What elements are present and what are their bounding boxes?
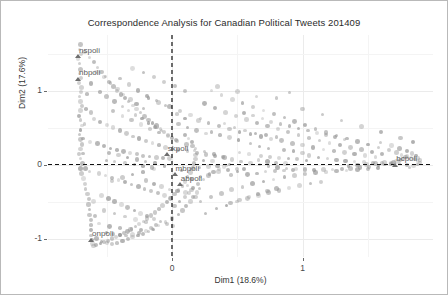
variable-label: onpoli [92, 229, 113, 238]
variable-marker-triangle [88, 238, 94, 242]
x-tick-mark [303, 258, 304, 261]
x-tick-label: 0 [162, 263, 182, 273]
plot-panel: nspolinbpoliskpolimbpoliabpolibcpolionpo… [48, 35, 433, 257]
variable-marker-triangle [392, 163, 398, 167]
variable-marker-triangle [177, 182, 183, 186]
variable-label: nspoli [79, 46, 100, 55]
y-tick-label: -1 [26, 233, 42, 243]
variable-marker-triangle [172, 172, 178, 176]
variable-label: nbpoli [79, 68, 100, 77]
variable-marker-triangle [75, 77, 81, 81]
y-tick-label: 0 [26, 159, 42, 169]
variable-marker-triangle [164, 152, 170, 156]
variable-label: skpoli [168, 144, 188, 153]
y-tick-mark [44, 91, 47, 92]
x-tick-mark [172, 258, 173, 261]
x-tick-label: 1 [293, 263, 313, 273]
variable-label: bcpoli [396, 154, 417, 163]
y-axis-label: Dim2 (17.6%) [17, 57, 27, 109]
y-tick-mark [44, 165, 47, 166]
x-axis-label: Dim1 (18.6%) [48, 275, 433, 285]
y-tick-label: 1 [26, 85, 42, 95]
variable-label: abpoli [181, 174, 202, 183]
screenshot-root: Correspondence Analysis for Canadian Pol… [0, 0, 448, 295]
variable-marker-triangle [75, 54, 81, 58]
plot-frame: Correspondence Analysis for Canadian Pol… [3, 3, 445, 292]
variable-label: mbpoli [176, 164, 200, 173]
variable-labels-layer: nspolinbpoliskpolimbpoliabpolibcpolionpo… [48, 35, 433, 257]
page-title: Correspondence Analysis for Canadian Pol… [3, 17, 445, 28]
y-tick-mark [44, 239, 47, 240]
